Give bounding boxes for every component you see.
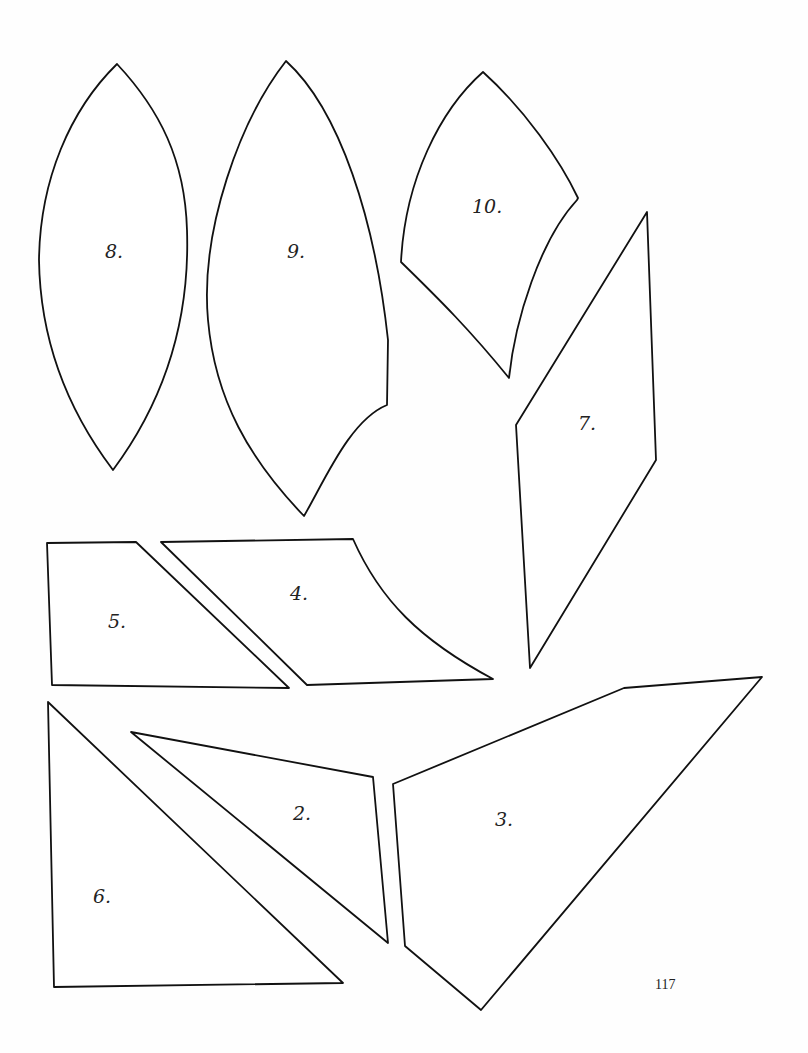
piece-10-label: 10. — [472, 195, 502, 217]
page-number: 117 — [655, 977, 675, 993]
piece-3: 3. — [393, 677, 762, 1010]
piece-5-label: 5. — [108, 610, 126, 632]
pattern-pieces: 8. 9. 10. 7. 5. 4. 6. 2. 3. — [0, 0, 808, 1053]
piece-10: 10. — [401, 72, 578, 378]
piece-7: 7. — [516, 212, 656, 668]
piece-9: 9. — [207, 61, 388, 516]
piece-8: 8. — [39, 64, 187, 470]
piece-4-label: 4. — [289, 582, 308, 604]
piece-9-label: 9. — [287, 240, 305, 262]
piece-7-label: 7. — [578, 412, 596, 434]
piece-3-label: 3. — [495, 808, 513, 830]
piece-6-label: 6. — [93, 885, 111, 907]
piece-2-label: 2. — [292, 802, 311, 824]
pattern-page: 8. 9. 10. 7. 5. 4. 6. 2. 3. 117 — [0, 0, 808, 1053]
piece-8-label: 8. — [105, 240, 123, 262]
